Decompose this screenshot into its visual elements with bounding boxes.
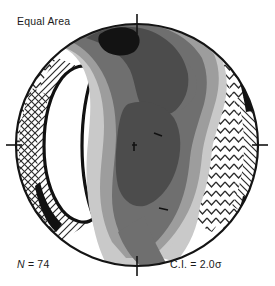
stereonet-figure: Equal Area N = 74 C.I. = 2.0σ bbox=[0, 0, 275, 286]
contour-field bbox=[0, 0, 275, 286]
sample-count-label: N = 74 bbox=[17, 258, 49, 270]
sample-count-symbol: N bbox=[17, 258, 25, 270]
stereonet-plot bbox=[0, 0, 275, 286]
contour-interval-label: C.I. = 2.0σ bbox=[170, 258, 222, 270]
sample-count-value: = 74 bbox=[25, 258, 50, 270]
projection-label: Equal Area bbox=[17, 15, 70, 27]
